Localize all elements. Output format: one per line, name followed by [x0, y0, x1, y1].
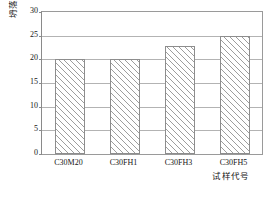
y-tick-mark [39, 130, 42, 131]
slump-bar-chart: 坍落度 / mm 试样代号 051015202530C30M20C30FH1C3… [0, 0, 279, 198]
y-tick-mark [39, 107, 42, 108]
y-tick-label: 30 [14, 6, 38, 15]
bar [110, 59, 140, 154]
y-tick-mark [39, 36, 42, 37]
x-tick-label: C30FH5 [204, 158, 264, 167]
x-tick-label: C30M20 [39, 158, 99, 167]
plot-area [41, 11, 263, 155]
bar [55, 59, 85, 154]
caption-fragment [30, 190, 250, 197]
x-tick-label: C30FH1 [94, 158, 154, 167]
y-tick-label: 25 [14, 30, 38, 39]
bar [220, 36, 250, 154]
y-tick-mark [39, 12, 42, 13]
y-tick-mark [39, 154, 42, 155]
y-tick-label: 20 [14, 53, 38, 62]
y-tick-mark [39, 59, 42, 60]
x-tick-label: C30FH3 [149, 158, 209, 167]
y-tick-label: 15 [14, 77, 38, 86]
bar [165, 46, 195, 154]
x-axis-title: 试样代号 [198, 169, 264, 181]
y-tick-label: 5 [14, 124, 38, 133]
y-tick-label: 10 [14, 101, 38, 110]
y-tick-label: 0 [14, 148, 38, 157]
y-tick-mark [39, 83, 42, 84]
